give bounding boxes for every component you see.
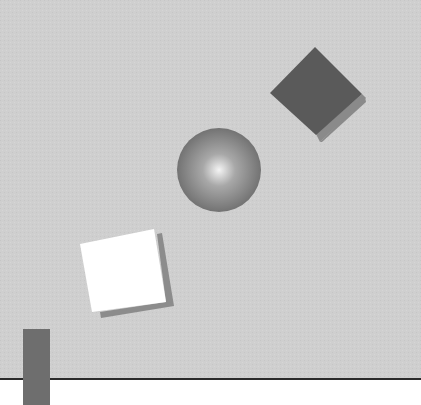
ground [0,380,421,405]
vertical-bar [23,329,50,405]
illustration-canvas [0,0,421,405]
scene-svg [0,0,421,405]
horizon-line [0,378,421,380]
white-tilted-square [80,229,166,312]
shaded-sphere [177,128,261,212]
